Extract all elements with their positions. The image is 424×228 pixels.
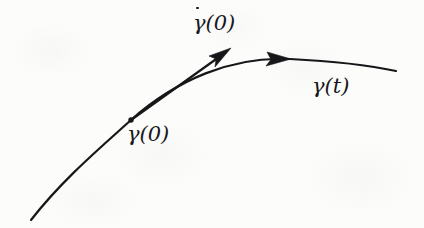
curve-tangent-vector-figure: γ (0) γ(0) γ(t) [0,0,424,228]
tangent-vector-shaft [131,52,226,120]
gamma-symbol: γ [312,74,325,98]
gamma-symbol-with-overdot: γ [193,13,206,34]
velocity-vector-label: γ (0) [193,13,235,34]
base-point-label: γ(0) [127,124,169,145]
velocity-vector-argument: (0) [206,11,236,35]
base-point-argument: (0) [140,122,170,146]
curve-argument: (t) [325,74,350,98]
gamma-symbol: γ [127,122,140,146]
tangent-vector-arrowhead [209,48,231,67]
gamma-symbol: γ [193,11,206,35]
curve-label: γ(t) [312,76,349,97]
